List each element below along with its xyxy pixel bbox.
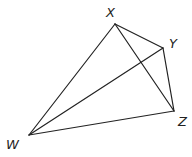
edge-x-y — [115, 24, 163, 48]
vertex-label-x: X — [105, 5, 116, 20]
diagonal-w-y — [29, 48, 163, 135]
vertex-label-y: Y — [169, 36, 178, 51]
edge-z-w — [29, 111, 174, 135]
edges — [29, 24, 174, 135]
vertex-label-z: Z — [177, 114, 188, 129]
quadrilateral-diagram: X Y Z W — [0, 0, 192, 157]
edge-w-x — [29, 24, 115, 135]
vertex-label-w: W — [6, 137, 20, 152]
edge-y-z — [163, 48, 174, 111]
diagonal-x-z — [115, 24, 174, 111]
